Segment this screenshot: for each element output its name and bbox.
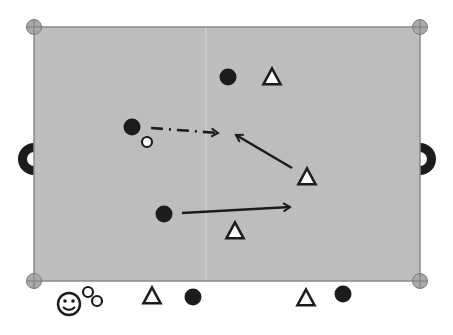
ball-icon xyxy=(142,137,152,147)
coach xyxy=(58,293,80,315)
dark-player-icon xyxy=(156,206,173,223)
dark-player-icon xyxy=(185,289,202,306)
ball-icon xyxy=(83,287,93,297)
dark-player-icon xyxy=(124,119,141,136)
drill-diagram xyxy=(0,0,453,335)
smiley-face-icon xyxy=(58,293,80,315)
ball-icon xyxy=(92,296,102,306)
corner-marker-icon xyxy=(27,20,42,35)
corner-marker-icon xyxy=(27,274,42,289)
dark-player-icon xyxy=(335,286,352,303)
corner-marker-icon xyxy=(413,20,428,35)
dark-player-icon xyxy=(220,69,237,86)
playing-field xyxy=(34,27,420,281)
triangle-player-icon xyxy=(298,290,315,306)
triangle-player-icon xyxy=(144,288,161,304)
corner-marker-icon xyxy=(413,274,428,289)
